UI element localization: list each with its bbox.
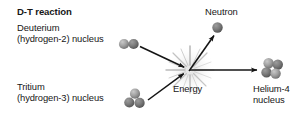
deuterium-nucleus-icon: [119, 39, 139, 49]
figure-title: D-T reaction: [17, 6, 72, 17]
helium4-label: Helium-4 nucleus: [253, 83, 290, 106]
neutron-nucleon-icon: [212, 22, 222, 32]
energy-label: Energy: [173, 83, 202, 94]
helium4-nucleus-icon: [261, 58, 283, 79]
tritium-label: Tritium (hydrogen-3) nucleus: [17, 81, 104, 104]
neutron-label: Neutron: [205, 6, 238, 17]
dt-reaction-figure: D-T reaction Deuterium (hydrogen-2) nucl…: [0, 0, 303, 116]
tritium-nucleus-icon: [124, 89, 144, 108]
deuterium-label: Deuterium (hydrogen-2) nucleus: [17, 22, 104, 45]
